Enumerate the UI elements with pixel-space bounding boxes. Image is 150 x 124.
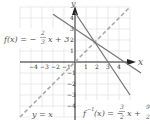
svg-text:−1: −1	[67, 69, 76, 76]
svg-text:2: 2	[145, 113, 150, 120]
svg-text:−3: −3	[67, 91, 76, 98]
x-axis-label: x	[138, 57, 143, 67]
svg-text:3: 3	[41, 38, 45, 45]
svg-text:x +: x +	[127, 109, 141, 118]
svg-text:−3: −3	[40, 63, 49, 70]
svg-text:1: 1	[70, 47, 74, 54]
svg-text:−4: −4	[29, 63, 38, 70]
svg-text:−4: −4	[67, 102, 76, 109]
svg-text:y = x: y = x	[31, 110, 53, 119]
f-inverse-line	[75, 13, 130, 96]
svg-text:9: 9	[146, 103, 150, 110]
y-axis-label: y	[70, 0, 76, 8]
f-inverse-label: f −1 (x) = − 3 2 x + 9 2	[82, 100, 150, 124]
svg-text:1: 1	[84, 63, 88, 70]
svg-text:2: 2	[95, 63, 99, 70]
svg-text:2: 2	[119, 113, 124, 120]
svg-text:2: 2	[70, 36, 74, 43]
svg-text:−2: −2	[67, 80, 76, 87]
svg-text:f(x) = −: f(x) = −	[3, 35, 36, 44]
svg-text:x + 3: x + 3	[48, 35, 69, 44]
svg-text:3: 3	[120, 103, 124, 110]
function-graph: x y −4 −3 −2 −1 1 2 3 4 4 3 2 1 −1 −2 −3…	[0, 0, 150, 124]
svg-text:(x) = −: (x) = −	[94, 109, 123, 118]
svg-text:4: 4	[117, 63, 121, 70]
f-label: f(x) = − 2 3 x + 3	[2, 28, 70, 48]
svg-text:2: 2	[40, 29, 45, 36]
identity-label: y = x	[30, 108, 54, 119]
svg-text:4: 4	[70, 14, 74, 21]
svg-text:−2: −2	[51, 63, 60, 70]
